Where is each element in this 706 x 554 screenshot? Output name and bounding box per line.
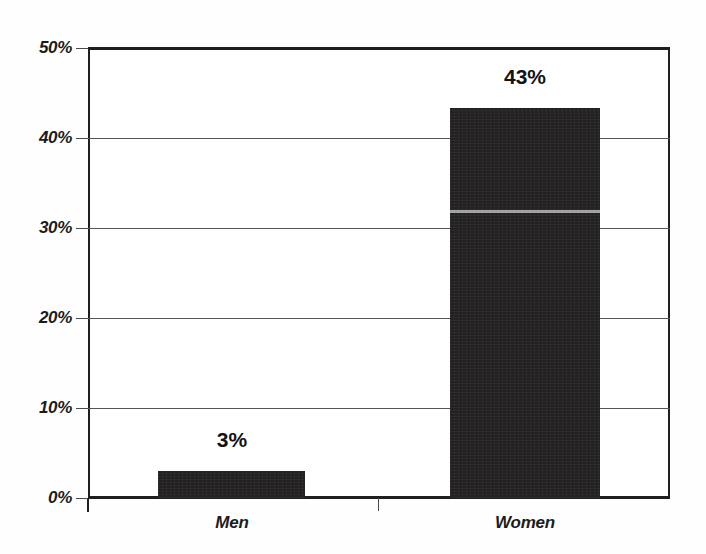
- bar-men: [158, 471, 305, 498]
- category-divider-tick: [378, 498, 379, 511]
- category-label-women: Women: [495, 513, 555, 533]
- y-axis-label-10: 10%: [2, 398, 72, 418]
- category-label-men: Men: [215, 513, 248, 533]
- y-axis-label-40: 40%: [2, 128, 72, 148]
- gridline-50: [88, 47, 670, 49]
- y-axis-stub: [87, 498, 89, 512]
- y-tick-mark-40: [76, 138, 88, 139]
- y-tick-mark-20: [76, 318, 88, 319]
- y-tick-mark-10: [76, 408, 88, 409]
- y-axis-label-50: 50%: [2, 38, 72, 58]
- y-axis-label-0: 0%: [2, 488, 72, 508]
- bar-chart: 50% 40% 30% 20% 10% 0% 3% Men 43% Women: [0, 0, 706, 554]
- y-tick-mark-0: [76, 498, 88, 499]
- y-tick-mark-30: [76, 228, 88, 229]
- y-tick-mark-50: [76, 48, 88, 49]
- bar-value-label-men: 3%: [217, 428, 247, 452]
- y-axis-label-30: 30%: [2, 218, 72, 238]
- bar-value-label-women: 43%: [504, 65, 546, 89]
- bar-women: [450, 108, 600, 498]
- y-axis-label-20: 20%: [2, 308, 72, 328]
